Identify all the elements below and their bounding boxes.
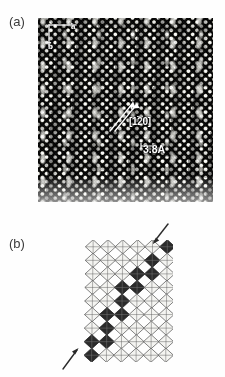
figure-container: (a) a b [0, 0, 225, 377]
octahedron-edge-lines [84, 321, 99, 335]
octahedron-edge-lines [85, 294, 100, 308]
octahedron-edge-lines [100, 280, 115, 294]
octahedron-edge-lines [143, 335, 158, 349]
octahedron-edge-lines [128, 348, 143, 362]
panel-label-b: (b) [9, 236, 25, 251]
octahedron-edge-lines [115, 267, 130, 281]
octahedron-edge-lines [85, 280, 100, 294]
octahedron-edge-lines [85, 240, 100, 254]
octahedron-edge-lines [130, 267, 145, 281]
octahedron-edge-lines [99, 321, 114, 335]
octahedron-edge-lines [84, 335, 99, 349]
octahedron-edge-lines [129, 294, 144, 308]
octahedron-edge-lines [100, 240, 115, 254]
octahedron-edge-lines [144, 280, 159, 294]
axis-label-b: b [48, 43, 53, 51]
octahedron-edge-lines [114, 348, 129, 362]
structure-model-panel-b [84, 240, 173, 362]
octahedron-edge-lines [114, 335, 129, 349]
octahedron-edge-lines [129, 335, 144, 349]
octahedron-edge-lines [130, 253, 145, 267]
octahedron-edge-lines [130, 240, 145, 254]
octahedron-edge-lines [144, 294, 159, 308]
octahedron-edge-lines [114, 321, 129, 335]
octahedron-edge-lines [115, 253, 130, 267]
direction-label-suffix: 0] [143, 116, 151, 127]
octahedron-edge-lines [84, 308, 99, 322]
octahedron-edge-lines [100, 267, 115, 281]
axis-label-a: a [71, 23, 75, 31]
octahedron-edge-lines [158, 348, 173, 362]
octahedron-edge-lines [144, 267, 159, 281]
octahedron-edge-lines [144, 308, 159, 322]
octahedron-edge-lines [115, 280, 130, 294]
annotation-arrow-top-icon [148, 222, 172, 246]
direction-label-120: [120] [129, 116, 151, 127]
octahedron-edge-lines [100, 294, 115, 308]
octahedron-edge-lines [99, 335, 114, 349]
annotation-arrow-bottom-icon [60, 345, 84, 371]
hrtem-micrograph-panel-a: a b [120] 3.8A [38, 18, 213, 202]
lattice-spacing-label: 3.8A [143, 144, 165, 155]
octahedron-edge-lines [129, 308, 144, 322]
octahedron-edge-lines [114, 294, 129, 308]
octahedron-edge-lines [100, 253, 115, 267]
octahedron-edge-lines [99, 308, 114, 322]
octahedron-edge-lines [114, 308, 129, 322]
panel-label-a: (a) [9, 14, 25, 29]
octahedron-edge-lines [115, 240, 130, 254]
octahedron-edge-lines [99, 348, 114, 362]
octahedron-edge-lines [129, 280, 144, 294]
octahedron-edge-lines [144, 321, 159, 335]
octahedron-edge-lines [129, 321, 144, 335]
octahedra-tiling-diagram [84, 240, 173, 362]
octahedron-edge-lines [85, 267, 100, 281]
octahedron-edge-lines [84, 348, 99, 362]
octahedron-edge-lines [143, 348, 158, 362]
octahedron-edge-lines [85, 253, 100, 267]
octahedron-edge-lines [145, 253, 160, 267]
